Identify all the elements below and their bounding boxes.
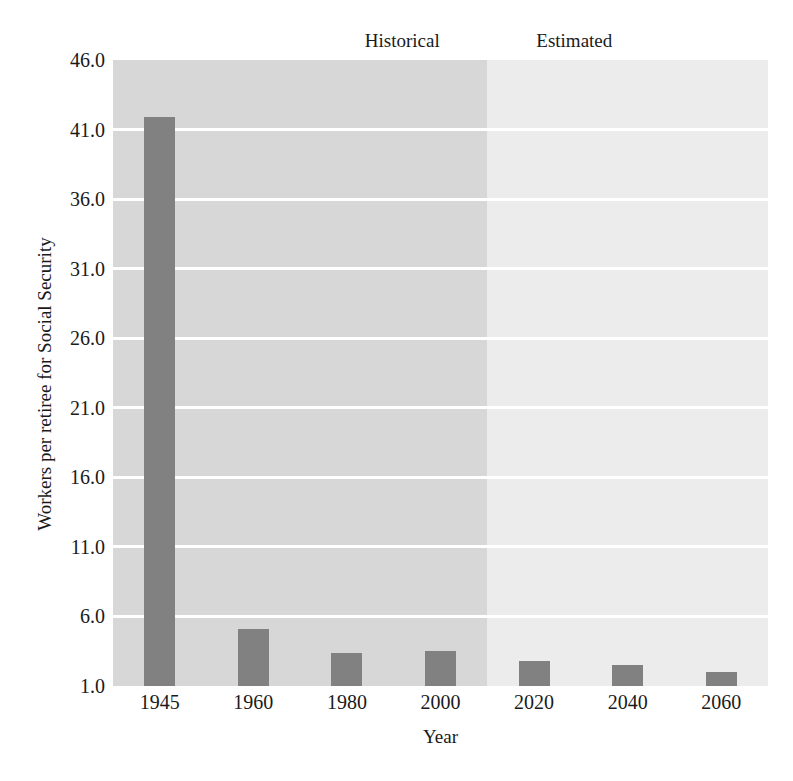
x-axis-tick-label: 1960 xyxy=(233,692,273,712)
y-axis-tick-label: 21.0 xyxy=(70,398,105,418)
chart-figure: Historical Estimated Workers per retiree… xyxy=(0,0,793,781)
gridline xyxy=(113,267,768,270)
x-axis-tick-label: 2020 xyxy=(514,692,554,712)
background-band-estimated xyxy=(487,60,768,686)
x-axis-tick-labels: 1945196019802000202020402060 xyxy=(113,692,768,722)
y-axis-tick-label: 26.0 xyxy=(70,328,105,348)
y-axis-tick-label: 6.0 xyxy=(80,606,105,626)
gridline xyxy=(113,337,768,340)
x-axis-tick-label: 2000 xyxy=(421,692,461,712)
x-axis-tick-label: 1980 xyxy=(327,692,367,712)
gridline xyxy=(113,128,768,131)
bar-1960[interactable] xyxy=(238,629,269,686)
gridline xyxy=(113,476,768,479)
gridline xyxy=(113,545,768,548)
bar-2020[interactable] xyxy=(519,661,550,686)
annotation-label-historical: Historical xyxy=(365,31,440,50)
bar-1945[interactable] xyxy=(144,117,175,686)
gridline xyxy=(113,406,768,409)
gridline xyxy=(113,198,768,201)
bar-2040[interactable] xyxy=(612,665,643,686)
y-axis-tick-label: 41.0 xyxy=(70,120,105,140)
y-axis-tick-label: 46.0 xyxy=(70,50,105,70)
y-axis-tick-label: 31.0 xyxy=(70,259,105,279)
y-axis-tick-label: 36.0 xyxy=(70,189,105,209)
gridline xyxy=(113,615,768,618)
y-axis-tick-label: 16.0 xyxy=(70,467,105,487)
plot-area xyxy=(113,60,768,686)
annotation-label-estimated: Estimated xyxy=(536,31,612,50)
y-axis-tick-label: 11.0 xyxy=(71,537,105,557)
x-axis-tick-label: 1945 xyxy=(140,692,180,712)
bar-2060[interactable] xyxy=(706,672,737,686)
x-axis-tick-label: 2040 xyxy=(608,692,648,712)
bar-2000[interactable] xyxy=(425,651,456,686)
x-axis-title: Year xyxy=(113,726,768,748)
y-axis-tick-labels: 46.041.036.031.026.021.016.011.06.01.0 xyxy=(0,60,105,686)
bar-1980[interactable] xyxy=(331,653,362,686)
y-axis-tick-label: 1.0 xyxy=(80,676,105,696)
x-axis-tick-label: 2060 xyxy=(701,692,741,712)
